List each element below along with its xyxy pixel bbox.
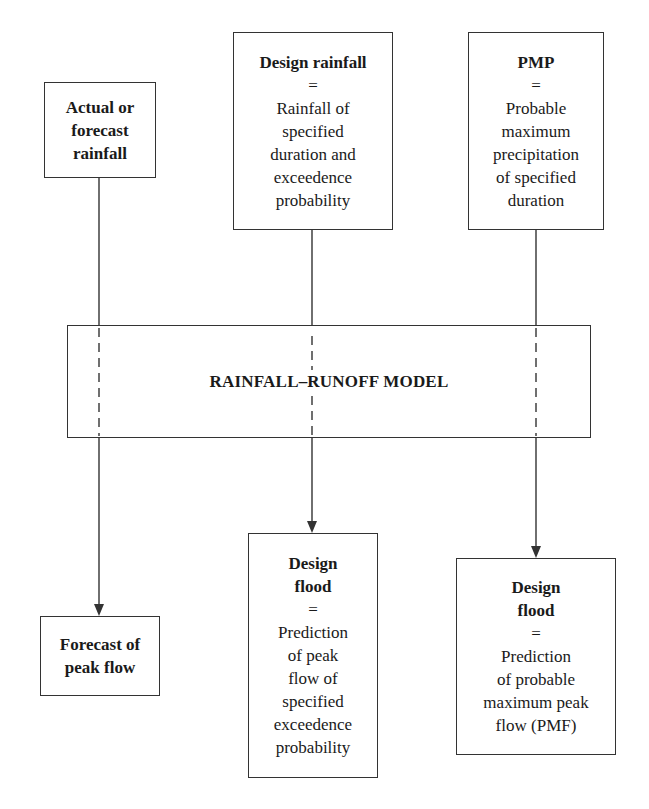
box-title-line: PMP: [518, 51, 555, 74]
box-desc-line: Prediction: [501, 645, 571, 668]
model-label: RAINFALL–RUNOFF MODEL: [208, 370, 451, 393]
box-title-line: Forecast of: [60, 633, 140, 656]
box-title-line: flood: [295, 575, 332, 598]
box-desc-line: flow of: [288, 667, 338, 690]
box-desc-line: Probable: [506, 97, 566, 120]
arrowhead-icon: [94, 604, 104, 616]
box-title-line: Design: [288, 552, 337, 575]
box-desc-line: precipitation: [493, 143, 579, 166]
box-title-line: forecast: [71, 119, 128, 142]
box-desc-line: flow (PMF): [496, 714, 577, 737]
box-desc-line: maximum: [502, 120, 571, 143]
equals-sign: =: [308, 74, 318, 97]
box-desc-line: probability: [276, 736, 351, 759]
box-title-line: flood: [518, 599, 555, 622]
box-title-line: peak flow: [65, 656, 135, 679]
box-desc-line: of specified: [496, 166, 576, 189]
box-forecast-peak-flow: Forecast of peak flow: [40, 616, 160, 696]
box-desc-line: Prediction: [278, 621, 348, 644]
box-desc-line: duration: [508, 189, 565, 212]
box-rainfall-runoff-model: RAINFALL–RUNOFF MODEL: [67, 325, 591, 438]
box-desc-line: specified: [282, 690, 343, 713]
box-design-flood-pmf: Design flood = Prediction of probable ma…: [456, 558, 616, 755]
box-desc-line: duration and: [270, 143, 355, 166]
box-pmp: PMP = Probable maximum precipitation of …: [468, 32, 604, 230]
equals-sign: =: [308, 598, 318, 621]
equals-sign: =: [531, 74, 541, 97]
box-design-flood-exceedence: Design flood = Prediction of peak flow o…: [248, 533, 378, 778]
box-desc-line: of peak: [288, 644, 339, 667]
box-desc-line: exceedence: [274, 166, 352, 189]
box-title-line: Design: [511, 576, 560, 599]
box-title-line: Actual or: [66, 96, 134, 119]
box-design-rainfall: Design rainfall = Rainfall of specified …: [233, 32, 393, 230]
box-desc-line: exceedence: [274, 713, 352, 736]
box-desc-line: specified: [282, 120, 343, 143]
arrowhead-icon: [307, 521, 317, 533]
box-title-line: Design rainfall: [259, 51, 366, 74]
arrowhead-icon: [531, 546, 541, 558]
box-desc-line: probability: [276, 189, 351, 212]
box-desc-line: maximum peak: [483, 691, 588, 714]
box-desc-line: Rainfall of: [276, 97, 349, 120]
equals-sign: =: [531, 622, 541, 645]
box-title-line: rainfall: [73, 142, 127, 165]
box-desc-line: of probable: [497, 668, 575, 691]
box-actual-rainfall: Actual or forecast rainfall: [44, 82, 156, 178]
